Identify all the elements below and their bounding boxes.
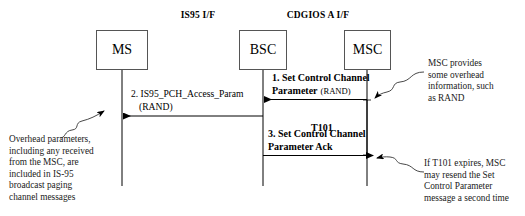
note-msc-overhead-line-1: MSC provides: [428, 58, 494, 70]
message-label-1-param: (RAND): [321, 86, 351, 96]
note-overhead-params-line-2: including any received: [9, 146, 94, 158]
message-label-3-line2: Parameter Ack: [268, 141, 366, 154]
note-t101-expiry-line-3: Control Parameter: [424, 181, 509, 193]
node-box-msc[interactable]: MSC: [344, 30, 391, 70]
message-label-1-line2-text: Parameter: [272, 85, 318, 96]
interface-label-cdgios-a: CDGIOS A I/F: [272, 10, 364, 20]
interface-label-is95: IS95 I/F: [158, 10, 238, 20]
note-msc-overhead-line-2: some overhead: [428, 70, 494, 82]
message-label-3: 3. Set Control Channel Parameter Ack: [268, 128, 366, 153]
note-t101-expiry-line-2: may resend the Set: [424, 170, 509, 182]
node-label-ms: MS: [112, 42, 132, 58]
message-label-1: 1. Set Control Channel Parameter(RAND): [272, 72, 370, 97]
note-t101-expiry-line-4: message a second time: [424, 193, 509, 205]
message-label-2-line2: (RAND): [139, 101, 243, 114]
message-label-3-line1: 3. Set Control Channel: [268, 128, 366, 141]
message-label-2: 2. IS95_PCH_Access_Param (RAND): [131, 88, 243, 113]
note-msc-overhead: MSC provides some overhead information, …: [428, 58, 494, 104]
note-overhead-params-line-5: broadcast paging: [9, 180, 94, 192]
note-overhead-params-line-6: channel messages: [9, 192, 94, 204]
node-box-bsc[interactable]: BSC: [239, 30, 287, 70]
node-label-bsc: BSC: [250, 42, 276, 58]
leader-line-msc-overhead: [375, 72, 424, 98]
message-label-1-line2: Parameter(RAND): [272, 85, 370, 98]
note-overhead-params-line-4: included in IS-95: [9, 169, 94, 181]
note-overhead-params-line-1: Overhead parameters,: [9, 134, 94, 146]
message-label-1-line1: 1. Set Control Channel: [272, 72, 370, 85]
message-label-2-line1: 2. IS95_PCH_Access_Param: [131, 88, 243, 101]
node-label-msc: MSC: [353, 42, 383, 58]
note-msc-overhead-line-3: information, such: [428, 81, 494, 93]
sequence-diagram: IS95 I/F CDGIOS A I/F MS BSC MSC 1. Set …: [0, 0, 525, 216]
note-msc-overhead-line-4: as RAND: [428, 93, 494, 105]
note-t101-expiry: If T101 expires, MSC may resend the Set …: [424, 158, 509, 204]
node-box-ms[interactable]: MS: [96, 30, 148, 70]
note-overhead-params-line-3: from the MSC, are: [9, 157, 94, 169]
leader-line-t101-expiry: [377, 157, 424, 172]
note-overhead-params: Overhead parameters, including any recei…: [9, 134, 94, 204]
note-t101-expiry-line-1: If T101 expires, MSC: [424, 158, 509, 170]
